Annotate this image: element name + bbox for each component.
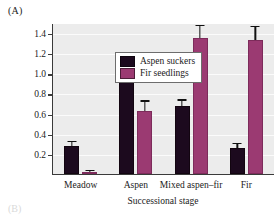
bar-group: Fir bbox=[219, 24, 274, 174]
error-bar-cap bbox=[140, 100, 149, 101]
panel-label-next: (B) bbox=[8, 203, 21, 214]
legend-item-fir-seedlings: Fir seedlings bbox=[120, 68, 195, 79]
legend-label-aspen-suckers: Aspen suckers bbox=[140, 57, 195, 67]
error-bar-cap bbox=[233, 143, 242, 144]
error-bar bbox=[71, 142, 72, 146]
bar-fir-seedlings[interactable] bbox=[137, 111, 152, 174]
bar-wrapper bbox=[64, 132, 79, 174]
x-axis-tick-label: Aspen bbox=[124, 180, 148, 190]
x-axis-title: Successional stage bbox=[52, 196, 274, 206]
x-axis-tick-label: Meadow bbox=[64, 180, 97, 190]
bar-wrapper bbox=[193, 24, 208, 174]
bar-group: Meadow bbox=[53, 24, 108, 174]
plot-area: 0.20.40.60.81.01.21.4 MeadowAspenMixed a… bbox=[52, 24, 274, 175]
panel-label: (A) bbox=[8, 5, 22, 16]
error-bar bbox=[181, 101, 182, 106]
legend-label-fir-seedlings: Fir seedlings bbox=[140, 69, 189, 79]
bar-aspen-suckers[interactable] bbox=[175, 106, 190, 174]
bar-fir-seedlings[interactable] bbox=[248, 40, 263, 174]
y-axis-tick-label: 1.2 bbox=[34, 49, 46, 59]
bar-groups: MeadowAspenMixed aspen–firFir bbox=[53, 24, 274, 174]
bar-group: Aspen bbox=[108, 24, 163, 174]
bar-wrapper bbox=[137, 97, 152, 174]
figure-panel-a: (A) (B) Density (no./m2) 0.20.40.60.81.0… bbox=[0, 0, 280, 216]
x-axis-tick-label: Fir bbox=[241, 180, 252, 190]
bar-wrapper bbox=[230, 134, 245, 174]
error-bar-cap bbox=[196, 25, 205, 26]
bar-aspen-suckers[interactable] bbox=[230, 148, 245, 174]
y-axis-tick-label: 0.2 bbox=[34, 150, 46, 160]
legend-item-aspen-suckers: Aspen suckers bbox=[120, 56, 195, 67]
error-bar-cap bbox=[251, 26, 260, 27]
bar-aspen-suckers[interactable] bbox=[64, 146, 79, 174]
error-bar-cap bbox=[178, 99, 187, 100]
y-axis-tick-label: 0.6 bbox=[34, 110, 46, 120]
y-axis-tick-label: 0.4 bbox=[34, 130, 46, 140]
bar-wrapper bbox=[248, 26, 263, 174]
error-bar bbox=[144, 102, 145, 111]
error-bar bbox=[89, 171, 90, 172]
error-bar bbox=[199, 26, 200, 38]
error-bar bbox=[237, 144, 238, 148]
bar-fir-seedlings[interactable] bbox=[82, 172, 97, 174]
bar-wrapper bbox=[175, 92, 190, 174]
error-bar bbox=[255, 27, 256, 40]
error-bar-cap bbox=[85, 170, 94, 171]
y-axis-tick-label: 1.4 bbox=[34, 29, 46, 39]
y-axis-tick-label: 0.8 bbox=[34, 89, 46, 99]
bar-wrapper bbox=[82, 158, 97, 174]
bar-group: Mixed aspen–fir bbox=[164, 24, 219, 174]
legend: Aspen suckers Fir seedlings bbox=[115, 52, 202, 83]
error-bar-cap bbox=[67, 141, 76, 142]
legend-swatch-fir-seedlings bbox=[120, 68, 135, 79]
x-axis-tick-label: Mixed aspen–fir bbox=[160, 180, 223, 190]
y-axis-tick-label: 1.0 bbox=[34, 69, 46, 79]
legend-swatch-aspen-suckers bbox=[120, 56, 135, 67]
bar-aspen-suckers[interactable] bbox=[119, 68, 134, 174]
